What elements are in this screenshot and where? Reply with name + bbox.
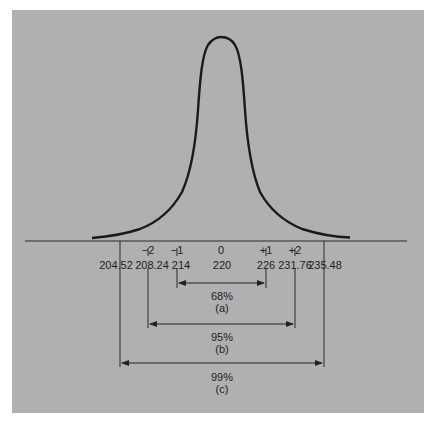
interval-a-percent: 68% [211,290,233,302]
bell-curve [92,37,350,238]
interval-c-tag: (c) [216,383,229,395]
sigma-label: −2 [142,244,155,256]
sigma-label: 0 [218,244,224,256]
interval-b-tag: (b) [215,343,228,355]
sigma-label: −1 [171,244,184,256]
value-label: 204.52 [99,259,133,271]
value-label: 226 [257,259,275,271]
value-label: 235.48 [308,259,342,271]
value-label: 214 [172,259,190,271]
normal-distribution-figure [0,0,435,423]
interval-c-percent: 99% [211,371,233,383]
sigma-label: +1 [260,244,273,256]
interval-b-percent: 95% [211,331,233,343]
value-label: 220 [213,259,231,271]
interval-a-tag: (a) [215,302,228,314]
sigma-label: +2 [289,244,302,256]
value-label: 231.76 [278,259,312,271]
value-label: 208.24 [135,259,169,271]
